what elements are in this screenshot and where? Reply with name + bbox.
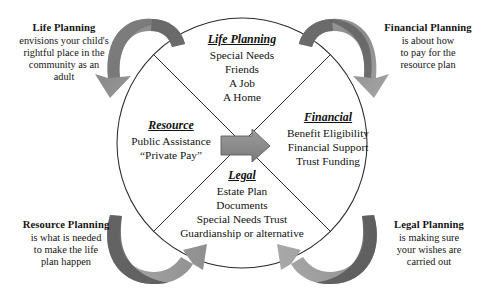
quadrant-legal-title: Legal	[148, 168, 336, 183]
quadrant-financial: Financial Benefit Eligibility Financial …	[268, 110, 388, 168]
caption-life-planning-title: Life Planning	[2, 22, 126, 35]
quadrant-financial-items: Benefit Eligibility Financial Support Tr…	[268, 126, 388, 169]
quadrant-resource-items: Public Assistance “Private Pay”	[107, 134, 235, 162]
quadrant-legal-items: Estate Plan Documents Special Needs Trus…	[148, 184, 336, 241]
quadrant-financial-title: Financial	[268, 110, 388, 125]
caption-legal-planning: Legal Planning is making sure your wishe…	[378, 219, 480, 268]
caption-resource-planning: Resource Planning is what is needed to m…	[2, 219, 130, 268]
quadrant-life-planning-title: Life Planning	[152, 32, 332, 47]
quadrant-resource: Resource Public Assistance “Private Pay”	[107, 118, 235, 162]
quadrant-life-planning: Life Planning Special Needs Friends A Jo…	[152, 32, 332, 104]
caption-resource-planning-title: Resource Planning	[2, 219, 130, 232]
quadrant-life-planning-items: Special Needs Friends A Job A Home	[152, 48, 332, 105]
caption-financial-planning-body: is about how to pay for the resource pla…	[376, 35, 480, 71]
caption-life-planning: Life Planning envisions your child's rig…	[2, 22, 126, 84]
caption-resource-planning-body: is what is needed to make the life plan …	[2, 232, 130, 268]
quadrant-resource-title: Resource	[107, 118, 235, 133]
caption-life-planning-body: envisions your child's rightful place in…	[2, 35, 126, 84]
caption-legal-planning-title: Legal Planning	[378, 219, 480, 232]
caption-financial-planning: Financial Planning is about how to pay f…	[376, 22, 480, 71]
quadrant-legal: Legal Estate Plan Documents Special Need…	[148, 168, 336, 240]
caption-legal-planning-body: is making sure your wishes are carried o…	[378, 232, 480, 268]
caption-financial-planning-title: Financial Planning	[376, 22, 480, 35]
